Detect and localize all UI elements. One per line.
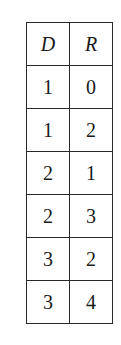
cell-d: 2 (27, 195, 70, 238)
table-row: 1 0 (27, 66, 113, 109)
cell-d: 2 (27, 152, 70, 195)
cell-d: 3 (27, 238, 70, 281)
cell-r: 2 (70, 238, 113, 281)
cell-d: 1 (27, 109, 70, 152)
cell-r: 2 (70, 109, 113, 152)
table-row: 2 1 (27, 152, 113, 195)
cell-d: 3 (27, 281, 70, 324)
table-row: 3 4 (27, 281, 113, 324)
cell-r: 0 (70, 66, 113, 109)
header-row: D R (27, 23, 113, 66)
column-header-r: R (70, 23, 113, 66)
cell-r: 3 (70, 195, 113, 238)
table-row: 3 2 (27, 238, 113, 281)
cell-d: 1 (27, 66, 70, 109)
cell-r: 4 (70, 281, 113, 324)
table-row: 1 2 (27, 109, 113, 152)
cell-r: 1 (70, 152, 113, 195)
table-row: 2 3 (27, 195, 113, 238)
column-header-d: D (27, 23, 70, 66)
data-table: D R 1 0 1 2 2 1 2 3 3 2 3 4 (26, 22, 113, 324)
